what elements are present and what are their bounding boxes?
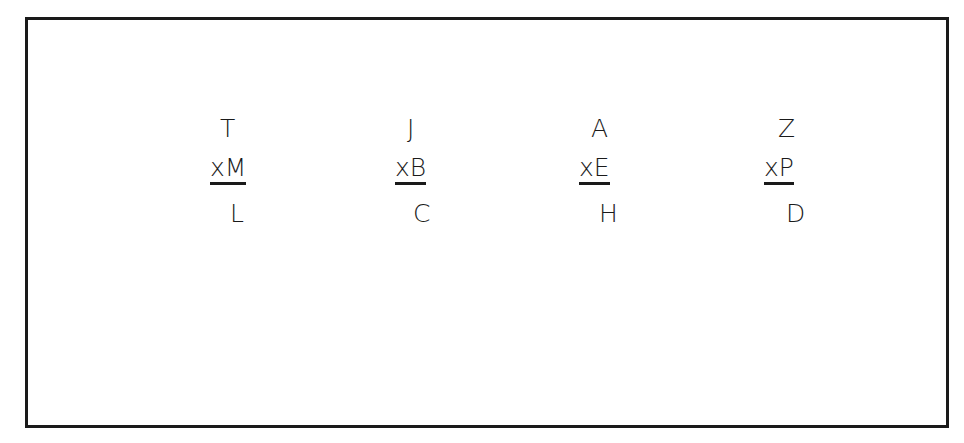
letter-group-3: A xE H: [577, 110, 657, 230]
group-bottom-letter: H: [599, 201, 618, 226]
letter-group-1: T xM L: [208, 110, 288, 230]
group-middle-label: xM: [210, 155, 246, 185]
group-bottom-letter: D: [786, 201, 805, 226]
group-top-letter: A: [591, 116, 608, 141]
group-middle-label: xB: [395, 155, 426, 185]
group-top-letter: T: [220, 116, 235, 141]
group-middle-label: xE: [579, 155, 610, 185]
letter-group-2: J xB C: [393, 110, 473, 230]
group-middle-label: xP: [764, 155, 794, 185]
group-top-letter: J: [407, 116, 414, 141]
letter-group-4: Z xP D: [762, 110, 842, 230]
group-bottom-letter: C: [413, 201, 430, 226]
group-top-letter: Z: [778, 116, 795, 141]
group-bottom-letter: L: [230, 201, 244, 226]
